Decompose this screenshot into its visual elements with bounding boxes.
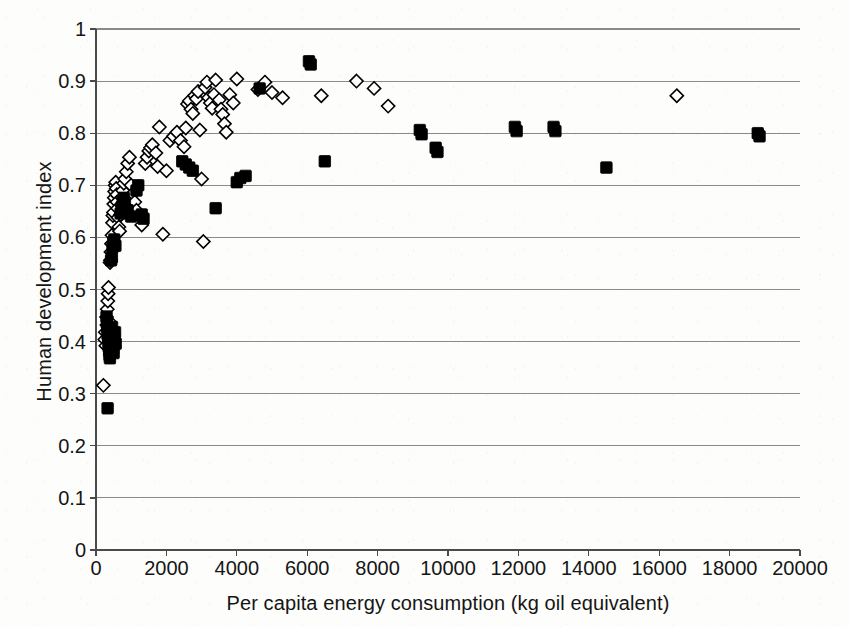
data-point-open-diamond — [153, 120, 166, 133]
data-point-open-diamond — [350, 75, 363, 88]
data-point-filled-square — [102, 403, 114, 415]
data-point-filled-square — [210, 202, 222, 214]
data-point-filled-square — [305, 59, 317, 71]
data-point-filled-square — [240, 170, 252, 182]
data-point-filled-square — [106, 251, 118, 263]
data-point-open-diamond — [193, 123, 206, 136]
data-point-open-diamond — [382, 100, 395, 113]
data-point-filled-square — [511, 125, 523, 136]
data-point-filled-square — [550, 125, 562, 136]
chart-figure: Human development index Per capita energ… — [0, 0, 850, 627]
data-point-open-diamond — [315, 89, 328, 102]
data-point-open-diamond — [156, 228, 169, 241]
data-point-filled-square — [254, 83, 266, 95]
data-point-filled-square — [754, 131, 766, 143]
data-point-filled-square — [110, 338, 122, 350]
data-point-filled-square — [187, 165, 199, 177]
data-point-filled-square — [109, 326, 121, 338]
data-point-filled-square — [110, 240, 122, 252]
data-point-filled-square — [432, 146, 444, 158]
data-point-open-diamond — [670, 89, 683, 102]
data-point-open-diamond — [367, 82, 380, 95]
series-filled-square-markers — [101, 56, 765, 414]
data-point-open-diamond — [97, 379, 110, 392]
data-point-open-diamond — [230, 72, 243, 85]
data-point-filled-square — [138, 213, 150, 225]
data-point-filled-square — [319, 156, 331, 168]
data-point-filled-square — [416, 128, 428, 140]
data-point-filled-square — [125, 211, 137, 223]
data-point-filled-square — [132, 180, 144, 192]
scatter-plot-canvas — [0, 0, 850, 627]
data-point-filled-square — [601, 162, 613, 174]
series-open-diamond-markers — [97, 72, 684, 392]
